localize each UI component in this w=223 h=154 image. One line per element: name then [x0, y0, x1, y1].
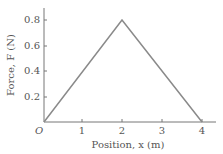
x-axis-title: Position, x (m) — [92, 139, 165, 150]
force-curve — [44, 20, 202, 122]
x-tick-label: 3 — [159, 125, 165, 136]
x-tick-label: 1 — [79, 125, 85, 136]
origin-label: O — [35, 125, 43, 136]
y-axis-title: Force, F (N) — [5, 34, 16, 96]
x-tick-label: 2 — [119, 125, 125, 136]
y-tick-label: 0.6 — [24, 40, 40, 51]
force-position-chart: 0.2 0.4 0.6 0.8 1 2 3 4 O Position, x (m… — [0, 0, 223, 154]
y-tick-label: 0.4 — [24, 65, 40, 76]
y-tick-label: 0.8 — [24, 14, 40, 25]
y-tick-label: 0.2 — [24, 91, 40, 102]
x-tick-label: 4 — [199, 125, 205, 136]
